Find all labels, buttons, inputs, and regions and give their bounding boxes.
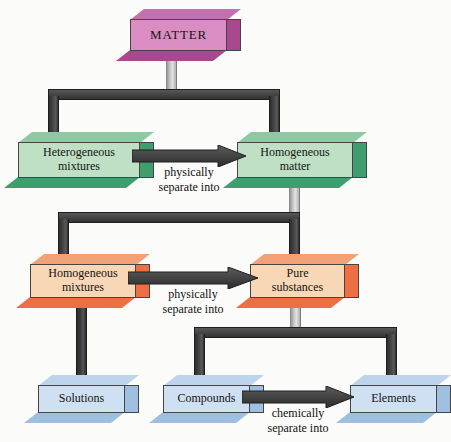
arrow-caption-homogeneous-mixtures-to-pure-substances: physically separate into bbox=[130, 287, 256, 317]
arrow-caption-line1: chemically bbox=[243, 406, 353, 421]
arrow-caption-line2: separate into bbox=[130, 180, 248, 195]
arrow-caption-line2: separate into bbox=[130, 302, 256, 317]
arrow-caption-compounds-to-elements: chemically separate into bbox=[243, 406, 353, 436]
arrow-caption-hetero-to-homogeneous-matter: physically separate into bbox=[130, 165, 248, 195]
arrow-caption-line1: physically bbox=[130, 165, 248, 180]
flowchart-canvas: MATTER Heterogeneous mixtures Homogeneou… bbox=[0, 0, 451, 442]
arrow-caption-line1: physically bbox=[130, 287, 256, 302]
arrow-caption-layer: physically separate into physically sepa… bbox=[0, 0, 451, 442]
arrow-caption-line2: separate into bbox=[243, 421, 353, 436]
